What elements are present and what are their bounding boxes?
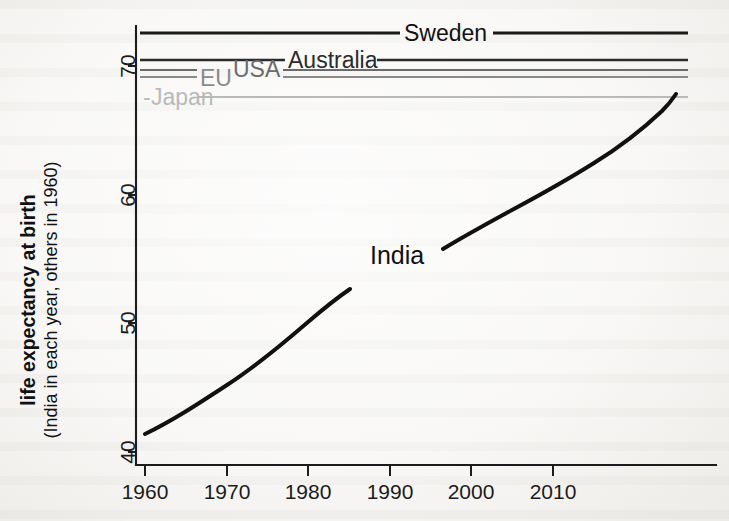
y-tick-label-70: 70 <box>116 54 139 77</box>
figure-page: 40 50 60 70 1960 1970 1980 1990 2000 201… <box>0 0 729 521</box>
series-label-india: India <box>370 241 424 269</box>
series-label-usa: USA <box>233 56 281 82</box>
series-label-australia: Australia <box>288 47 378 73</box>
x-tick-label-1990: 1990 <box>367 480 414 503</box>
series-label-japan: Japan <box>151 84 214 110</box>
y-tick-label-50: 50 <box>116 311 139 334</box>
y-tick-label-40: 40 <box>116 440 139 463</box>
series-line-india-right <box>443 94 676 249</box>
x-tick-label-2010: 2010 <box>530 480 577 503</box>
line-chart: 40 50 60 70 1960 1970 1980 1990 2000 201… <box>0 0 729 521</box>
series-label-sweden: Sweden <box>404 20 487 46</box>
x-tick-label-1970: 1970 <box>204 480 251 503</box>
x-tick-label-1980: 1980 <box>285 480 332 503</box>
x-tick-group: 1960 1970 1980 1990 2000 2010 <box>122 465 577 503</box>
x-tick-label-1960: 1960 <box>122 480 169 503</box>
series-label-japan-prefix: - <box>143 84 151 110</box>
series-line-india-left <box>145 289 350 434</box>
y-axis-title-sub: (India in each year, others in 1960) <box>41 161 61 438</box>
y-axis-title-main: life expectancy at birth <box>17 194 39 405</box>
x-tick-label-2000: 2000 <box>448 480 495 503</box>
y-tick-label-60: 60 <box>116 183 139 206</box>
